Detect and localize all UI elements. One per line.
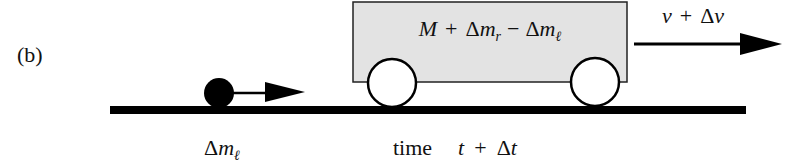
ground-track	[110, 106, 746, 114]
cart-diagram: (b) M+Δmr−Δmℓ v+Δv Δmℓ timet+Δt	[0, 0, 796, 165]
panel-label: (b)	[17, 42, 43, 67]
right-wheel	[571, 58, 619, 106]
left-wheel	[368, 59, 416, 107]
mass-velocity-arrow	[232, 82, 305, 102]
time-label: timet+Δt	[393, 135, 518, 160]
mass-label: Δmℓ	[204, 135, 240, 163]
mass-ball	[204, 78, 234, 108]
velocity-label: v+Δv	[662, 3, 724, 28]
velocity-arrow	[634, 33, 782, 55]
